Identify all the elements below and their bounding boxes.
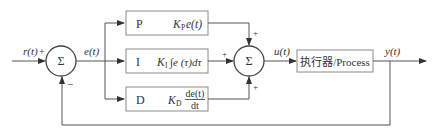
p-gain-sub: P xyxy=(181,23,185,32)
error-signal-line xyxy=(76,23,124,99)
p-block: P K P e(t) xyxy=(126,11,208,35)
d-gain-sub: D xyxy=(176,99,182,108)
d-block-label: D xyxy=(136,93,145,107)
feedback-sign-label: − xyxy=(67,78,73,90)
i-expr: ∫e (τ)dτ xyxy=(169,56,202,69)
d-expr-denominator: dt xyxy=(191,100,199,111)
sum-sign-top: + xyxy=(253,28,258,38)
output-signal-label: y(t) xyxy=(384,45,401,58)
sigma-icon: Σ xyxy=(58,54,65,68)
process-block: 执行器/Process xyxy=(297,50,373,72)
sum-sign-middle: + xyxy=(222,49,227,59)
p-block-label: P xyxy=(136,17,143,31)
process-block-label: 执行器/Process xyxy=(300,55,370,68)
reference-signal-label: r(t) xyxy=(23,45,38,58)
reference-sign-label: + xyxy=(39,46,45,57)
error-signal-label: e(t) xyxy=(84,45,100,58)
summing-junction-left: Σ xyxy=(46,46,76,76)
sigma-icon: Σ xyxy=(246,54,253,68)
sum-sign-bottom: + xyxy=(253,82,258,92)
summing-junction-right: Σ xyxy=(234,46,264,76)
d-expr-numerator: de(t) xyxy=(186,88,205,100)
i-block: I K I ∫e (τ)dτ xyxy=(126,49,208,73)
p-expr: e(t) xyxy=(186,18,202,31)
control-signal-label: u(t) xyxy=(274,45,290,58)
d-block: D K D de(t) dt xyxy=(126,87,208,111)
pid-block-diagram: r(t) + Σ e(t) P K P e(t) I K I ∫e (τ)dτ … xyxy=(0,0,433,134)
i-block-label: I xyxy=(136,55,140,69)
